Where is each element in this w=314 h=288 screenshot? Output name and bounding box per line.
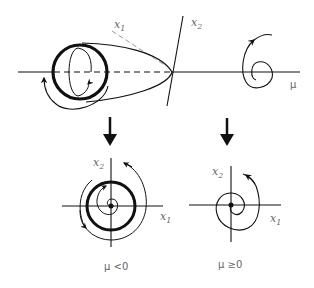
x2-axis [167,16,183,106]
x1-label: x1 [160,210,171,225]
down-arrow-left-icon [103,117,117,146]
x1-label: x1 [270,212,281,227]
phase-portrait-mu-nonnegative: x2 x1 μ ≥0 [189,165,281,270]
fixed-point [109,204,114,209]
caption-mu-negative: μ <0 [104,261,128,272]
top-3d-panel: x1 x2 μ [18,16,300,109]
inner-spiral [97,186,118,215]
x2-label: x2 [93,156,104,171]
mu-label: μ [290,79,297,90]
fixed-point [229,203,234,208]
phase-portrait-mu-negative: x2 x1 μ <0 [62,156,171,272]
caption-mu-nonnegative: μ ≥0 [218,259,242,270]
right-spiral [243,40,273,88]
unstable-spiral [216,174,259,230]
down-arrow-right-icon [220,118,234,146]
x2-label: x2 [212,165,223,180]
x1-axis-dashed [112,31,166,66]
x1-label-top: x1 [114,18,125,33]
x2-label-top: x2 [191,16,202,31]
bifurcation-diagram: x1 x2 μ x2 x1 μ <0 x2 x1 μ [0,0,314,288]
